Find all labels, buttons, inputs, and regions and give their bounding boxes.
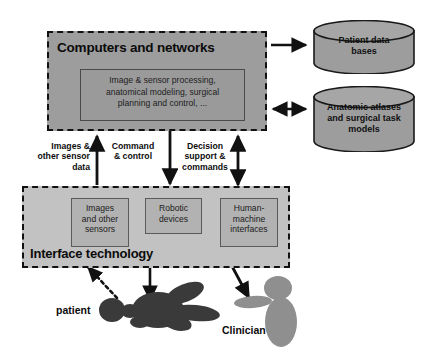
patient-figure: [99, 277, 221, 334]
clinician-label: Clinician: [222, 324, 266, 336]
diagram-canvas: Computers and networks Image & sensor pr…: [0, 0, 432, 358]
patient-label: patient: [56, 304, 90, 316]
clinician-figure: [234, 276, 297, 347]
